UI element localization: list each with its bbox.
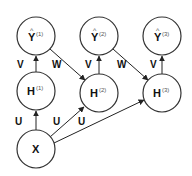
node-y3-superscript: (3) (162, 31, 169, 37)
edge-label-u1: U (15, 116, 22, 127)
node-h1-superscript: (1) (36, 85, 43, 91)
edge-label-v2: V (85, 59, 92, 70)
node-y2-superscript: (2) (99, 31, 106, 37)
node-h3: H (3) (143, 74, 181, 112)
node-y3: ^ Y (3) (143, 17, 181, 55)
edge-label-w2: W (117, 59, 127, 70)
edge-label-u3: U (78, 116, 85, 127)
edge-label-v3: V (150, 59, 157, 70)
node-y1-superscript: (1) (36, 31, 43, 37)
node-h1-label: H (27, 85, 35, 97)
node-y1: ^ Y (1) (17, 17, 55, 55)
node-h2: H (2) (80, 74, 118, 112)
edge-label-w1: W (52, 59, 62, 70)
node-h3-circle (143, 74, 181, 112)
edge-label-v1: V (17, 59, 24, 70)
node-y2: ^ Y (2) (80, 17, 118, 55)
node-h2-superscript: (2) (99, 87, 106, 93)
node-h1-circle (17, 72, 55, 110)
node-h3-superscript: (3) (162, 87, 169, 93)
node-x: X (17, 130, 55, 168)
node-h1: H (1) (17, 72, 55, 110)
node-h2-circle (80, 74, 118, 112)
node-h2-label: H (90, 87, 98, 99)
edge-label-u2: U (53, 116, 60, 127)
node-y3-label: Y (154, 31, 162, 43)
rnn-unrolled-diagram: V W V W V U U U ^ Y (1) ^ Y (2) ^ Y (3) … (0, 0, 192, 176)
node-y1-label: Y (28, 31, 36, 43)
node-x-label: X (32, 143, 40, 155)
node-y2-label: Y (91, 31, 99, 43)
node-h3-label: H (153, 87, 161, 99)
